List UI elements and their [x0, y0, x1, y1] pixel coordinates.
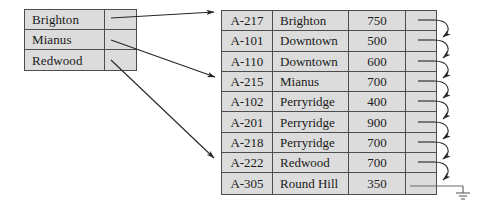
branch-name-cell: Perryridge [273, 112, 349, 131]
account-number-cell: A-110 [222, 52, 273, 71]
balance-cell: 400 [349, 92, 406, 111]
branch-name-cell: Perryridge [273, 92, 349, 111]
table-row[interactable]: A-201 Perryridge 900 [222, 112, 436, 132]
record-pointer-cell [406, 173, 436, 193]
index-pointer-cell [105, 50, 136, 70]
index-row[interactable]: Redwood [25, 50, 136, 70]
balance-cell: 700 [349, 133, 406, 152]
account-number-cell: A-215 [222, 72, 273, 91]
table-row[interactable]: A-110 Downtown 600 [222, 52, 436, 72]
index-diagram: Brighton Mianus Redwood A-217 Brighton 7… [0, 0, 502, 204]
record-pointer-cell [406, 72, 436, 91]
account-number-cell: A-305 [222, 173, 273, 193]
index-key-cell: Mianus [25, 30, 105, 49]
index-key-cell: Brighton [25, 10, 105, 29]
branch-name-cell: Downtown [273, 31, 349, 50]
record-pointer-cell [406, 133, 436, 152]
table-row[interactable]: A-222 Redwood 700 [222, 153, 436, 173]
account-number-cell: A-218 [222, 133, 273, 152]
branch-name-cell: Perryridge [273, 133, 349, 152]
table-row[interactable]: A-305 Round Hill 350 [222, 173, 436, 193]
table-row[interactable]: A-102 Perryridge 400 [222, 92, 436, 112]
balance-cell: 700 [349, 153, 406, 172]
branch-name-cell: Mianus [273, 72, 349, 91]
balance-cell: 700 [349, 72, 406, 91]
index-row[interactable]: Mianus [25, 30, 136, 50]
account-number-cell: A-217 [222, 11, 273, 30]
record-pointer-cell [406, 52, 436, 71]
index-pointer-cell [105, 30, 136, 49]
branch-name-cell: Downtown [273, 52, 349, 71]
record-pointer-cell [406, 112, 436, 131]
account-number-cell: A-222 [222, 153, 273, 172]
balance-cell: 500 [349, 31, 406, 50]
table-row[interactable]: A-218 Perryridge 700 [222, 133, 436, 153]
balance-cell: 900 [349, 112, 406, 131]
account-number-cell: A-102 [222, 92, 273, 111]
balance-cell: 600 [349, 52, 406, 71]
index-pointer-cell [105, 10, 136, 29]
table-row[interactable]: A-217 Brighton 750 [222, 11, 436, 31]
branch-name-cell: Round Hill [273, 173, 349, 193]
table-row[interactable]: A-101 Downtown 500 [222, 31, 436, 51]
branch-name-cell: Brighton [273, 11, 349, 30]
balance-cell: 350 [349, 173, 406, 193]
record-pointer-cell [406, 92, 436, 111]
record-pointer-cell [406, 31, 436, 50]
record-pointer-cell [406, 153, 436, 172]
account-number-cell: A-101 [222, 31, 273, 50]
index-key-cell: Redwood [25, 50, 105, 70]
account-number-cell: A-201 [222, 112, 273, 131]
index-row[interactable]: Brighton [25, 10, 136, 30]
table-row[interactable]: A-215 Mianus 700 [222, 72, 436, 92]
search-key-index-table: Brighton Mianus Redwood [24, 9, 137, 71]
balance-cell: 750 [349, 11, 406, 30]
index-arrow-redwood [111, 60, 214, 158]
account-file-table: A-217 Brighton 750 A-101 Downtown 500 A-… [221, 10, 437, 195]
record-pointer-cell [406, 11, 436, 30]
branch-name-cell: Redwood [273, 153, 349, 172]
